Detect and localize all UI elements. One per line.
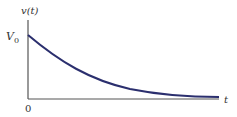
- origin-label: 0: [25, 103, 31, 114]
- decay-diagram: v(t) V0 0 t: [0, 0, 237, 117]
- x-axis-label: t: [224, 94, 229, 105]
- decay-curve: [28, 35, 219, 97]
- y-axis-label: v(t): [21, 5, 39, 16]
- v0-label: V0: [6, 30, 19, 45]
